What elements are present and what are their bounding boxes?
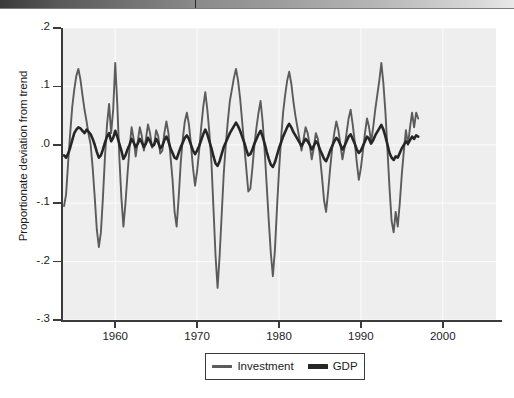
y-tick-label: .1 [10,78,50,90]
x-tick-label: 1980 [254,330,304,342]
y-tick-label: .2 [10,20,50,32]
x-tick-label: 1960 [90,330,140,342]
y-tick-mark [53,27,61,29]
y-tick-mark [53,86,61,88]
y-tick-label: -.3 [10,312,50,324]
legend-label-gdp: GDP [333,361,358,373]
y-tick-mark [53,144,61,146]
chart-figure: Proportionate deviation from trend .2.1.… [0,0,514,398]
x-tick-mark [114,321,116,328]
y-tick-mark [53,202,61,204]
legend-swatch-gdp [308,364,328,368]
y-tick-label: .0 [10,137,50,149]
x-tick-mark [196,321,198,328]
x-tick-mark [360,321,362,328]
x-tick-label: 2000 [418,330,468,342]
x-tick-label: 1970 [172,330,222,342]
x-tick-label: 1990 [336,330,386,342]
legend-item-investment[interactable]: Investment [212,361,293,373]
legend-label-investment: Investment [237,361,293,373]
y-tick-mark [53,261,61,263]
y-tick-label: -.2 [10,254,50,266]
x-tick-mark [278,321,280,328]
chart-legend: Investment GDP [205,353,365,380]
y-tick-mark [53,319,61,321]
legend-swatch-investment [212,365,232,368]
legend-item-gdp[interactable]: GDP [308,361,358,373]
x-tick-mark [442,321,444,328]
y-tick-label: -.1 [10,195,50,207]
